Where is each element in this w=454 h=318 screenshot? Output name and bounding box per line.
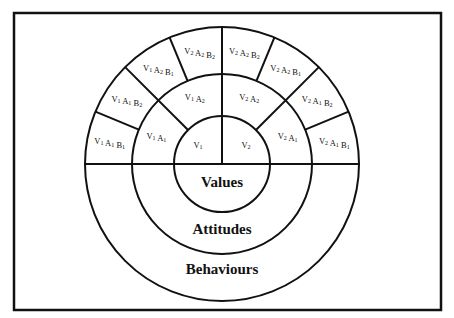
ring-divider: [95, 112, 138, 130]
behaviours-cell-v2a1b2: V2 A1 B2: [302, 94, 333, 108]
values-cell-v2: V2: [241, 140, 250, 150]
attitudes-cell-v1a2: V1 A2: [185, 92, 205, 104]
behaviours-cell-v1a1b1: V1 A1 B1: [94, 136, 125, 150]
behaviours-cell-v2a2b2: V2 A2 B2: [229, 46, 260, 60]
behaviours-cell-v2a1b1: V2 A1 B1: [319, 136, 350, 150]
attitudes-cell-v2a1: V2 A1: [278, 131, 298, 143]
behaviours-cell-v1a2b1: V1 A2 B1: [143, 63, 174, 77]
values-cell-v1: V1: [193, 140, 202, 150]
behaviours-cell-v2a2b2-left: V2 A2 B2: [184, 46, 215, 60]
behaviours-cell-v2a2b1: V2 A2 B1: [270, 63, 301, 77]
behaviours-cell-v1a1b2: V1 A1 B2: [111, 94, 142, 108]
attitudes-label: Attitudes: [192, 221, 251, 237]
values-label: Values: [201, 174, 243, 190]
behaviours-label: Behaviours: [186, 261, 259, 277]
ring-divider: [305, 112, 348, 130]
attitudes-cell-v2a2: V2 A2: [239, 92, 259, 104]
values-attitudes-behaviours-diagram: V1V2 V1 A1V1 A2V2 A2V2 A1 V1 A1 B1V1 A1 …: [0, 0, 454, 318]
attitudes-cell-v1a1: V1 A1: [146, 131, 166, 143]
